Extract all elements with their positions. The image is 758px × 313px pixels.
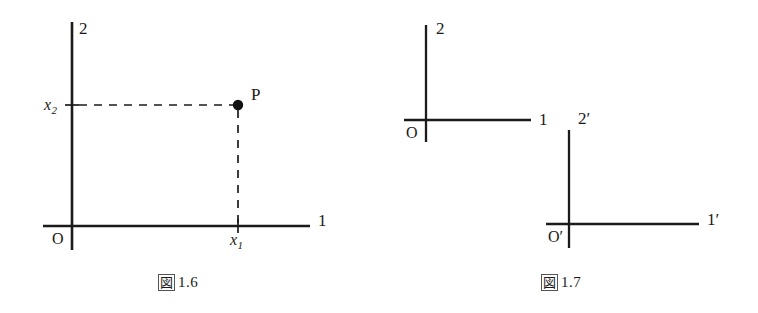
fig17-frame2-vertical-axis-label: 2′ [578, 110, 590, 127]
fig16-x2-subscript: 2 [52, 104, 58, 116]
fig16-vertical-axis-label: 2 [79, 20, 88, 37]
fig16-x1-subscript: 1 [238, 239, 244, 251]
figure-1-6-caption: 図1.6 [158, 272, 198, 291]
figure-1-7-frame-one-axes [404, 25, 531, 142]
figure-1-6-caption-mark: 図 [158, 274, 175, 291]
fig16-horizontal-axis-label: 1 [318, 212, 327, 229]
fig16-x1-base: x [230, 231, 237, 248]
fig17-frame1-origin-label: O [406, 125, 418, 141]
figure-1-7-caption: 図1.7 [541, 272, 581, 291]
fig16-origin-label: O [52, 231, 64, 247]
fig16-point-p-marker [233, 100, 243, 110]
figure-1-7-caption-number: 1.7 [561, 274, 581, 290]
fig16-point-p-label: P [251, 86, 260, 103]
fig17-frame1-horizontal-axis-label: 1 [539, 111, 548, 128]
fig16-x2-base: x [44, 96, 51, 113]
figure-1-6-axes [43, 22, 310, 250]
fig16-x2-label: x2 [44, 97, 57, 113]
figure-1-7-frame-two-axes [546, 130, 699, 248]
figure-sheet: 2 1 O P x2 x1 2 1 O 2′ 1′ O′ 図1.6 図1.7 [0, 0, 758, 313]
fig17-frame2-origin-label: O′ [548, 229, 563, 245]
figure-1-6-projections [65, 100, 243, 233]
figure-1-7-caption-mark: 図 [541, 274, 558, 291]
fig17-frame1-vertical-axis-label: 2 [436, 20, 445, 37]
figures-vector-layer [0, 0, 758, 313]
figure-1-6-caption-number: 1.6 [178, 274, 198, 290]
fig17-frame2-horizontal-axis-label: 1′ [707, 211, 719, 228]
fig16-x1-label: x1 [230, 232, 243, 248]
